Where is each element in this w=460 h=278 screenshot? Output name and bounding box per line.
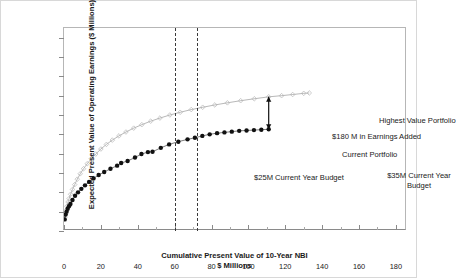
data-point	[70, 198, 74, 202]
data-point	[146, 150, 150, 154]
plot-area: 01002003004005006007008009001,000 020406…	[63, 27, 406, 230]
data-point	[76, 190, 80, 194]
data-point	[230, 129, 234, 133]
data-point	[79, 187, 83, 191]
data-point	[237, 129, 241, 133]
data-point	[244, 128, 248, 132]
data-point	[125, 159, 129, 163]
data-point	[259, 127, 263, 131]
y-tick-mark	[59, 231, 64, 232]
data-point	[102, 170, 106, 174]
data-series-layer	[64, 28, 407, 231]
reference-line-highest-value	[197, 28, 198, 231]
annotation-budget-25m: $25M Current Year Budget	[254, 173, 344, 183]
x-axis-title: Cumulative Present Value of 10-Year NBI …	[63, 251, 406, 271]
data-point	[108, 167, 112, 171]
data-point	[167, 142, 171, 146]
data-point	[119, 161, 123, 165]
data-point	[176, 139, 180, 143]
y-axis-title: Expected Present Value of Operating Earn…	[87, 0, 96, 218]
data-point	[96, 173, 100, 177]
annotation-current-portfolio: Current Portfolio	[342, 150, 397, 160]
data-point	[252, 128, 256, 132]
x-axis-title-line2: $ Millions	[63, 261, 406, 271]
series-line-0	[65, 93, 310, 218]
annotation-highest-value-portfolio: Highest Value Portfolio	[379, 116, 456, 126]
data-point	[207, 132, 211, 136]
data-point	[68, 202, 72, 206]
data-point	[185, 137, 189, 141]
x-axis-title-line1: Cumulative Present Value of 10-Year NBI	[63, 251, 406, 261]
annotation-budget-35m: $35M Current Year Budget	[378, 171, 460, 191]
data-point	[215, 131, 219, 135]
data-point	[159, 146, 163, 150]
data-point	[200, 134, 204, 138]
data-point	[222, 130, 226, 134]
data-point	[139, 152, 143, 156]
reference-line-current-portfolio	[175, 28, 176, 231]
annotation-earnings-added: $180 M in Earnings Added	[332, 132, 421, 142]
data-point	[150, 150, 154, 154]
data-point	[115, 163, 119, 167]
data-point	[73, 194, 77, 198]
data-point	[133, 155, 137, 159]
